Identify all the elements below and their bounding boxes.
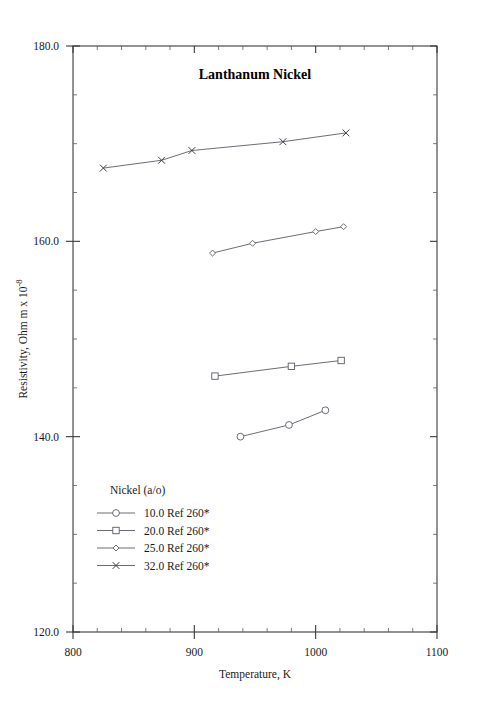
y-axis-label-exponent: -8 [14, 279, 24, 286]
legend-item[interactable]: 25.0 Ref 260* [97, 542, 210, 554]
x-tick-label: 900 [186, 646, 204, 658]
y-tick-label: 140.0 [33, 431, 59, 443]
y-tick-label: 160.0 [33, 235, 59, 247]
legend-item-label: 10.0 Ref 260* [144, 507, 210, 519]
x-tick-label: 1000 [304, 646, 327, 658]
legend-item[interactable]: 32.0 Ref 260* [97, 560, 210, 572]
legend-item-label: 32.0 Ref 260* [144, 560, 210, 572]
legend-item[interactable]: 10.0 Ref 260* [97, 507, 210, 519]
y-axis-label-main: Resistivity, Ohm m x 10 [17, 286, 30, 398]
marker-circle [322, 407, 329, 414]
legend-item-label: 25.0 Ref 260* [144, 542, 210, 554]
chart-figure: 120.0140.0160.0180.080090010001100 Lanth… [0, 0, 488, 711]
marker-circle [286, 422, 293, 429]
resistivity-vs-temperature-chart: 120.0140.0160.0180.080090010001100 Lanth… [0, 0, 488, 711]
marker-circle [113, 510, 120, 517]
x-axis-label: Temperature, K [219, 668, 292, 681]
chart-title: Lanthanum Nickel [199, 67, 312, 82]
legend-title: Nickel (a/o) [110, 484, 165, 497]
data-series [237, 407, 329, 440]
marker-square [338, 357, 344, 363]
legend-item-label: 20.0 Ref 260* [144, 525, 210, 537]
data-series [210, 224, 347, 256]
marker-diamond [341, 224, 347, 230]
marker-square [113, 527, 119, 533]
series-line [213, 227, 344, 253]
marker-diamond [313, 229, 319, 235]
data-series [100, 130, 349, 172]
chart-legend: Nickel (a/o) 10.0 Ref 260*20.0 Ref 260*2… [97, 484, 210, 572]
series-line [103, 133, 346, 168]
series-line [215, 360, 341, 376]
series-line [240, 410, 325, 436]
marker-circle [237, 433, 244, 440]
data-series [212, 357, 345, 379]
y-tick-label: 120.0 [33, 626, 59, 638]
axis-ticks [66, 46, 437, 639]
x-tick-label: 1100 [426, 646, 449, 658]
marker-diamond [250, 240, 256, 246]
marker-diamond [210, 250, 216, 256]
marker-diamond [113, 545, 119, 551]
y-tick-label: 180.0 [33, 40, 59, 52]
x-tick-label: 800 [64, 646, 82, 658]
axis-tick-labels: 120.0140.0160.0180.080090010001100 [33, 40, 448, 658]
legend-item[interactable]: 20.0 Ref 260* [97, 525, 210, 537]
y-axis-label: Resistivity, Ohm m x 10-8 [14, 279, 30, 398]
data-series-layer [100, 130, 349, 441]
y-axis-label-group: Resistivity, Ohm m x 10-8 [14, 279, 30, 398]
marker-square [288, 363, 294, 369]
plot-frame [73, 46, 437, 632]
marker-square [212, 373, 218, 379]
